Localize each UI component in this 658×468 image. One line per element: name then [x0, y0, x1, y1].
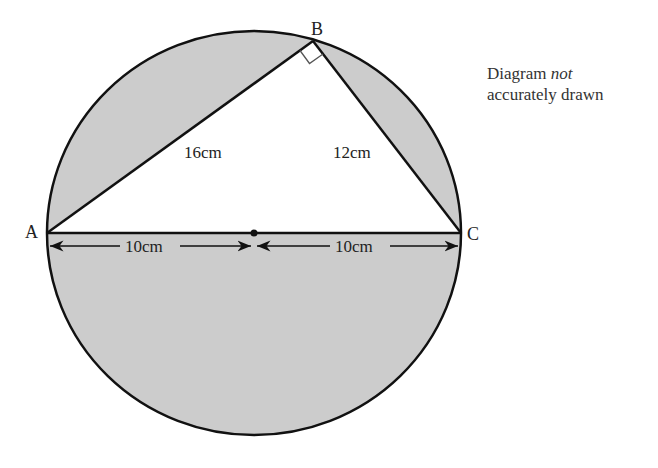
length-label-ab: 16cm: [184, 143, 222, 162]
centre-point: [251, 230, 258, 237]
vertex-label-b: B: [311, 19, 323, 39]
note-line-1: Diagram not: [487, 63, 604, 84]
length-label-ao: 10cm: [125, 237, 163, 256]
note-line-2: accurately drawn: [487, 84, 604, 105]
note-italic-word: not: [551, 64, 573, 83]
length-label-bc: 12cm: [333, 143, 371, 162]
diagram-note: Diagram not accurately drawn: [487, 63, 604, 105]
vertex-label-c: C: [467, 224, 479, 244]
length-label-oc: 10cm: [335, 237, 373, 256]
vertex-label-a: A: [25, 222, 38, 242]
